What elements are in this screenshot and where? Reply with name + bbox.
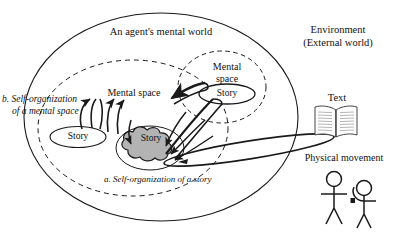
story-label-right: Story	[205, 88, 249, 99]
text-label: Text	[312, 92, 362, 104]
stick-figure-icon	[321, 172, 347, 225]
loop-cloud-to-text	[163, 128, 336, 173]
open-book-icon	[315, 106, 357, 137]
environment-label-line1: Environment	[284, 24, 392, 36]
arrow-b-loop-4	[117, 100, 124, 134]
caption-b-line1: Self-organization	[12, 94, 78, 104]
caption-a-text: Self-organization of a story	[113, 174, 211, 184]
connector-story-right-to-cloud	[166, 99, 213, 154]
caption-a-marker: a.	[104, 174, 111, 184]
story-label-center: Story	[130, 133, 172, 144]
story-label-left: Story	[56, 131, 100, 142]
mental-space-right-label-line2: space	[200, 73, 254, 84]
caption-b: b. Self-organization of a mental space	[2, 94, 118, 117]
caption-b-line2: of a mental space	[2, 106, 79, 118]
environment-label-line2: (External world)	[284, 37, 392, 49]
agent-mental-world-label: An agent's mental world	[78, 26, 244, 38]
caption-b-marker: b.	[2, 94, 9, 104]
stick-figure-icon	[351, 181, 377, 229]
diagram-canvas: An agent's mental world Environment (Ext…	[0, 0, 394, 240]
mental-space-right-label-line1: Mental	[200, 61, 254, 72]
caption-a: a. Self-organization of a story	[104, 174, 244, 184]
physical-movement-label: Physical movement	[294, 152, 394, 163]
